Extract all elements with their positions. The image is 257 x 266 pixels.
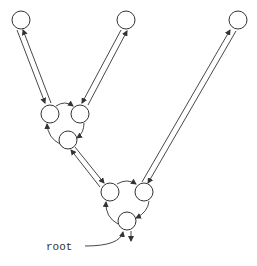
node-d (41, 105, 59, 123)
diagram-canvas: root (0, 0, 257, 266)
edge-b-e (82, 30, 127, 105)
root-label: root (46, 241, 72, 253)
root-pointer (85, 231, 131, 246)
node-a (12, 11, 30, 29)
node-h (135, 183, 153, 201)
node-b (117, 11, 135, 29)
edge-f-g (71, 147, 104, 187)
node-g (101, 183, 119, 201)
node-f (59, 131, 77, 149)
edge-a-d (17, 30, 51, 103)
node-c (229, 11, 247, 29)
node-i-root (118, 212, 136, 230)
node-e (71, 105, 89, 123)
edge-c-h (142, 30, 236, 183)
